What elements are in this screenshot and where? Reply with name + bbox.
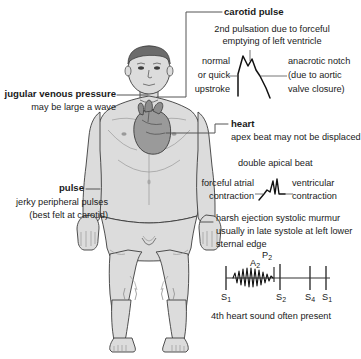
carotid-pulse-waveform: [229, 50, 287, 102]
carotid-right-line2: (due to aortic: [288, 70, 342, 81]
pulse-caption-line1: jerky peripheral pulses: [0, 197, 108, 208]
apical-left-line2: contraction: [186, 191, 254, 202]
a2-subscript: 2: [256, 262, 260, 269]
murmur-line2: usually in late systole at left lower: [216, 226, 352, 237]
heart-organ: [134, 100, 171, 154]
pulse-caption-line2: (best felt at carotid): [0, 210, 108, 221]
apical-left-line1: forceful atrial: [186, 178, 254, 189]
label-s1-last: S1: [322, 292, 332, 304]
apical-right-line2: contraction: [292, 191, 337, 202]
carotid-left-line3: upstroke: [178, 84, 230, 95]
s1-last-subscript: 1: [328, 296, 332, 303]
carotid-caption-line2: emptying of left ventricle: [196, 36, 348, 47]
carotid-right-line3: valve closure): [288, 84, 345, 95]
label-s2: S2: [276, 292, 286, 304]
p2-subscript: 2: [268, 254, 272, 261]
murmur-line1: harsh ejection systolic murmur: [216, 213, 340, 224]
murmur-line3: sternal edge: [216, 239, 267, 250]
label-pulse: pulse: [0, 182, 84, 193]
label-heart: heart: [231, 118, 254, 129]
apical-right-line1: ventricular: [292, 178, 334, 189]
s4-subscript: 4: [311, 296, 315, 303]
jvp-caption: may be large a wave: [0, 102, 116, 113]
apical-beat-waveform: [255, 172, 293, 202]
s2-subscript: 2: [282, 296, 286, 303]
carotid-left-line2: or quick: [178, 70, 230, 81]
carotid-caption-line1: 2nd pulsation due to forceful: [196, 24, 348, 35]
hair: [128, 46, 170, 64]
label-p2: P2: [262, 250, 272, 262]
label-jvp: jugular venous pressure: [0, 88, 116, 99]
s1-first-subscript: 1: [227, 296, 231, 303]
label-s1-first: S1: [221, 292, 231, 304]
label-carotid-pulse: carotid pulse: [224, 6, 284, 17]
heart-sounds-footer: 4th heart sound often present: [211, 311, 331, 322]
label-s4: S4: [305, 292, 315, 304]
carotid-left-line1: normal: [178, 56, 230, 67]
leader-heart: [166, 124, 228, 133]
carotid-right-line1: anacrotic notch: [288, 56, 350, 67]
label-double-apical-beat: double apical beat: [238, 158, 313, 169]
label-a2: A2: [250, 258, 260, 270]
heart-caption: apex beat may not be displaced: [231, 132, 361, 143]
